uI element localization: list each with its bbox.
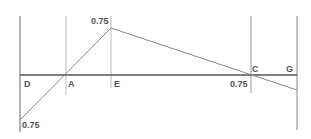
point-label-e: E — [114, 80, 120, 89]
diagram-canvas — [0, 0, 311, 139]
point-label-g: G — [286, 65, 293, 74]
value-label-c: 0.75 — [230, 80, 248, 89]
value-label-peak: 0.75 — [91, 17, 109, 26]
point-label-a: A — [68, 80, 75, 89]
shear-line — [20, 28, 297, 120]
value-label-min: 0.75 — [22, 121, 40, 130]
point-label-d: D — [24, 80, 31, 89]
point-label-c: C — [252, 65, 259, 74]
